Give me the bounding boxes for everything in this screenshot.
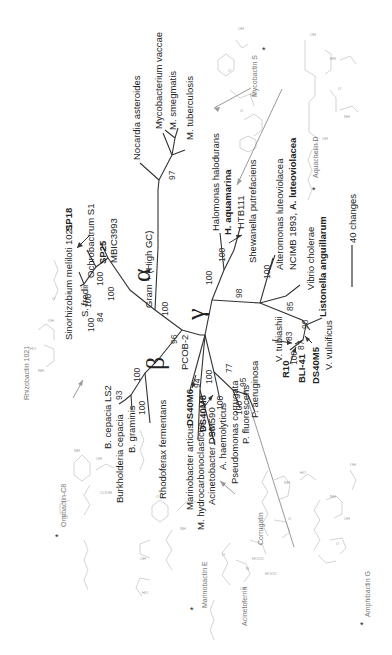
amphibactin-structure: NHOHOHOOH <box>300 462 356 563</box>
bootstrap: 100 <box>217 248 227 262</box>
bootstrap: 100 <box>160 302 170 316</box>
label-corrugatin: Corrugatin <box>257 512 265 545</box>
svg-text:COOH: COOH <box>100 490 112 495</box>
svg-text:O: O <box>52 296 55 301</box>
marker-mycobactin: * <box>262 45 266 55</box>
label-rhizobactin: Rhizobactin 1021 <box>23 346 30 400</box>
clade-gram-positive: Gram + (High GC) <box>143 231 154 308</box>
clade-gamma: γ <box>181 309 210 322</box>
svg-text:OH: OH <box>140 556 146 561</box>
svg-text:NH: NH <box>38 368 44 373</box>
bootstrap: 98 <box>300 319 310 329</box>
taxon-v-vulnificus: V. vulnificus <box>323 320 334 370</box>
marker-aquachelin: * <box>312 185 316 195</box>
svg-text:OH: OH <box>344 516 350 521</box>
svg-text:NH: NH <box>330 494 336 499</box>
svg-text:OH: OH <box>310 32 316 37</box>
taxon-m-tuberculosis: M. tuberculosis <box>184 76 195 140</box>
svg-text:NH: NH <box>180 526 186 531</box>
taxon-ds40m6: DS40M6 <box>184 389 195 426</box>
bootstrap: 84 <box>95 312 105 322</box>
taxon-pseudomonas-corrugata: Pseudomonas corrugata <box>229 380 240 484</box>
bootstrap: 100 <box>132 368 142 382</box>
svg-text:NH: NH <box>284 480 290 485</box>
svg-text:O: O <box>222 552 225 557</box>
taxon-marinobacter-articus: Marinobacter articus <box>184 424 195 510</box>
bootstrap: 100 <box>234 401 244 415</box>
svg-text:HO: HO <box>300 470 306 475</box>
bootstrap: 98 <box>234 288 244 298</box>
taxon-listonella: Listonella anguillarum <box>317 216 328 317</box>
phylogenetic-tree-figure: OHONHO OHHNONHOH NHOHOHOOH HOOCHOOCNHO O… <box>0 0 392 655</box>
bootstrap: 83 <box>284 331 294 341</box>
taxon-burkholderia-cepacia: Burkholderia cepacia <box>114 414 125 503</box>
svg-text:OH: OH <box>238 26 244 31</box>
bootstrap: 100 <box>95 272 105 286</box>
svg-text:N: N <box>246 566 249 571</box>
taxon-halomonas: Halomonas halodurans <box>210 133 221 231</box>
taxon-mbic3993: MBIC3993 <box>108 218 119 263</box>
svg-text:HO: HO <box>142 590 148 595</box>
bootstrap: 85 <box>285 301 295 311</box>
clade-beta: β <box>141 357 170 370</box>
svg-text:NH: NH <box>74 448 80 453</box>
marker-amphibactin: * <box>360 620 364 630</box>
bootstrap: 90 <box>207 426 217 436</box>
bootstrap: 94 <box>192 378 202 388</box>
svg-text:NH: NH <box>344 114 350 119</box>
bootstrap: 96 <box>169 334 179 344</box>
taxon-ds40m5: DS40M5 <box>310 346 321 384</box>
rhizobactin-structure: HOOHNHO <box>30 260 58 373</box>
ornibactin-structure: OHHNCOOHNH <box>60 448 114 590</box>
svg-text:O: O <box>336 541 339 546</box>
bootstrap: 77 <box>224 363 234 373</box>
label-ornibactin: Ornibactin-C8 <box>60 484 67 527</box>
taxon-b-graminis: B. graminis <box>126 405 137 453</box>
svg-text:OH: OH <box>322 136 328 141</box>
taxon-m-hydrocarbonoclasticus: M. hydrocarbonoclasticus <box>195 422 206 530</box>
svg-text:O: O <box>288 516 291 521</box>
taxon-a-haemolyticus: A. haemolyticus <box>217 403 228 470</box>
taxon-myco-vaccae: Mycobacterium vaccae <box>153 32 164 129</box>
taxon-nocardia: Nocardia asteroides <box>131 75 142 160</box>
scale-bar: 40 changes <box>347 194 358 287</box>
marker-marinobactin: * <box>190 605 194 615</box>
taxon-ochrobactrum: Ochrobactrum S1 <box>85 204 96 278</box>
label-aquachelin: Aquachelin D <box>312 136 320 178</box>
label-mycobactin: Mycobactin S <box>251 55 259 97</box>
label-amphibactin: Amphibactin G <box>364 571 372 617</box>
bootstrap: 100 <box>262 265 272 279</box>
svg-text:OH: OH <box>96 456 102 461</box>
taxon-sinorhizobium: Sinorhizobium meliloti 1021 <box>63 224 74 340</box>
taxon-sp18: SP18 <box>63 208 74 231</box>
svg-text:HO: HO <box>30 346 36 351</box>
bootstrap: 100 <box>289 351 299 365</box>
marker-ornibactin: * <box>55 532 59 542</box>
taxon-v-tubiashii: V. tubiashii <box>273 316 284 362</box>
siderophore-labels: Mycobactin S * Aquachelin D * Amphibacti… <box>23 45 372 630</box>
taxon-vibrio: Vibrio cholerae <box>305 227 316 290</box>
bootstrap: 100 <box>204 370 214 384</box>
taxon-sp25: SP25 <box>97 240 108 264</box>
bootstrap: 100 <box>204 271 214 285</box>
svg-text:O: O <box>228 68 231 73</box>
taxon-ncimb: NCIMB 1893, <box>287 213 298 270</box>
taxon-b-cepacia-ls2: B. cepacia LS2 <box>102 385 113 449</box>
taxon-rhodoferax: Rhodoferax fermentans <box>157 399 168 499</box>
bootstrap: 97 <box>167 170 177 180</box>
bootstrap: 87 <box>296 340 306 350</box>
taxon-ds40m8: DS40M8 <box>197 395 208 432</box>
scale-bar-label: 40 changes <box>347 194 358 243</box>
taxon-shewanella: Shewanella putrefaciens <box>247 159 258 263</box>
bootstrap: 100 <box>215 396 225 410</box>
svg-text:OH: OH <box>350 462 356 467</box>
svg-text:HN: HN <box>330 56 336 61</box>
taxon-h-aquamarina: H. aquamarina <box>222 169 233 235</box>
taxon-pcob2: PCOB-2 <box>179 335 190 370</box>
bootstrap: 100 <box>83 294 93 308</box>
svg-text:O: O <box>338 86 341 91</box>
svg-text:O: O <box>240 108 243 113</box>
svg-text:HOOC: HOOC <box>252 556 264 561</box>
label-acinetoferrin: Acinetoferrin <box>241 587 248 626</box>
bootstrap: 95 <box>238 377 248 387</box>
